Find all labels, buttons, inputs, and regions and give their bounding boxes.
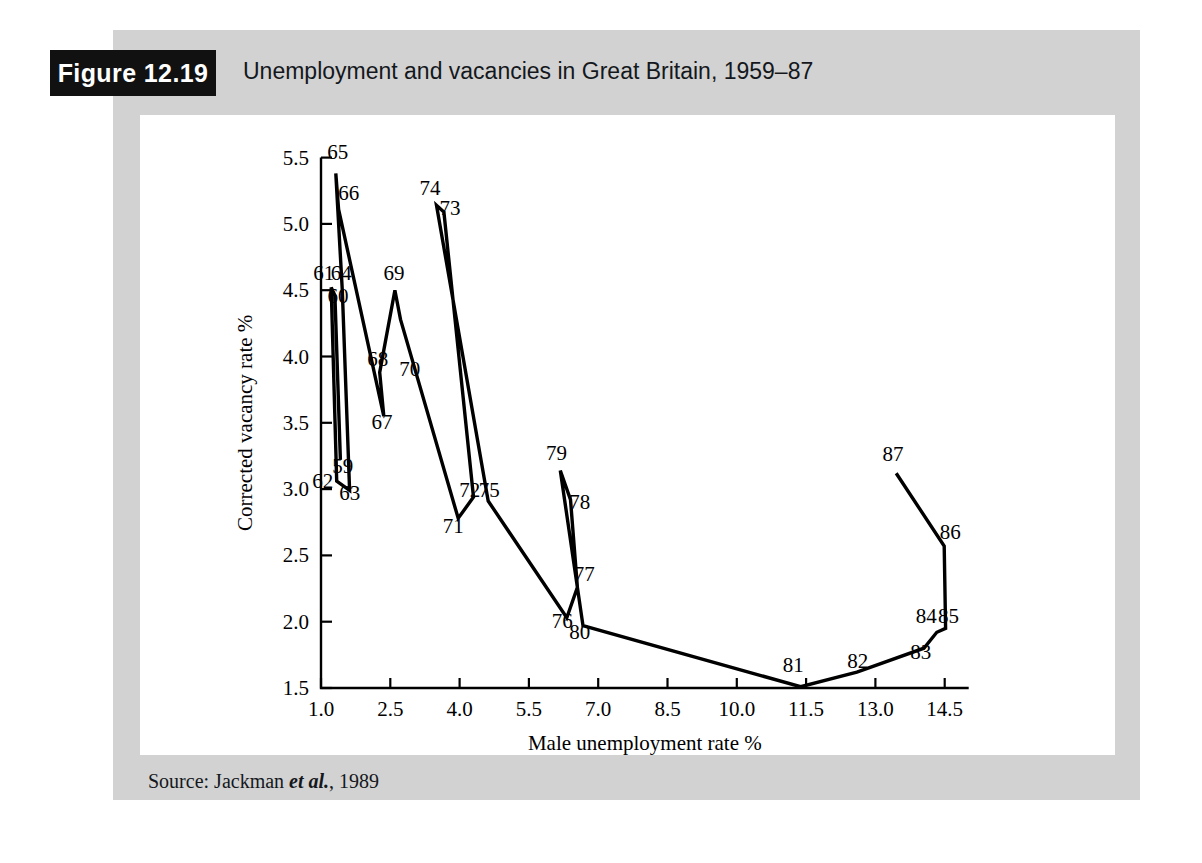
figure-page: Figure 12.19 Unemployment and vacancies … [0,0,1202,863]
point-label-83: 83 [910,640,931,664]
x-tick-label: 10.0 [718,697,755,721]
x-tick-label: 5.5 [516,697,542,721]
chart-axes [321,158,969,688]
point-label-82: 82 [847,649,868,673]
point-label-73: 73 [439,196,460,220]
point-label-74: 74 [420,176,442,200]
point-label-71: 71 [443,514,464,538]
y-tick-label: 2.5 [283,543,309,567]
point-label-87: 87 [882,442,903,466]
point-label-84: 84 [916,604,938,628]
point-label-77: 77 [574,562,595,586]
point-label-80: 80 [569,620,590,644]
point-label-85: 85 [938,604,959,628]
beveridge-curve-plot: 5960616263646566676869707172737475767778… [0,0,1202,863]
x-tick-label: 14.5 [926,697,963,721]
point-label-65: 65 [327,140,348,164]
point-label-75: 75 [479,478,500,502]
y-tick-label: 3.5 [283,411,309,435]
x-axis-title: Male unemployment rate % [528,731,762,755]
axis-lines [321,158,969,688]
x-tick-label: 7.0 [585,697,611,721]
point-label-66: 66 [338,181,359,205]
point-label-78: 78 [569,490,590,514]
point-label-79: 79 [546,441,567,465]
chart-point-labels: 5960616263646566676869707172737475767778… [312,140,960,677]
point-label-81: 81 [783,653,804,677]
y-axis-title: Corrected vacancy rate % [233,315,257,531]
point-label-63: 63 [339,481,360,505]
point-label-64: 64 [331,261,353,285]
x-tick-label: 2.5 [377,697,403,721]
point-label-62: 62 [312,469,333,493]
x-tick-label: 4.0 [446,697,472,721]
series-path [331,174,945,687]
chart-series-line [331,174,945,687]
y-tick-label: 1.5 [283,676,309,700]
x-tick-label: 13.0 [857,697,894,721]
x-tick-label: 11.5 [788,697,824,721]
y-tick-label: 3.0 [283,477,309,501]
x-tick-label: 1.0 [308,697,334,721]
point-label-72: 72 [459,478,480,502]
y-tick-label: 5.0 [283,212,309,236]
point-label-59: 59 [332,454,353,478]
point-label-68: 68 [367,347,388,371]
x-tick-label: 8.5 [654,697,680,721]
point-label-67: 67 [371,410,392,434]
point-label-70: 70 [399,357,420,381]
y-tick-label: 4.5 [283,278,309,302]
point-label-69: 69 [383,261,404,285]
y-tick-label: 2.0 [283,610,309,634]
y-tick-label: 5.5 [283,146,309,170]
y-tick-label: 4.0 [283,345,309,369]
point-label-60: 60 [328,284,349,308]
point-label-86: 86 [940,520,961,544]
